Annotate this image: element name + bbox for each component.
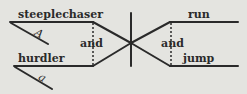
predicate-1-word: run <box>188 9 210 20</box>
subject-conjunction: and <box>80 38 103 49</box>
sentence-diagram: steeplechaser A hurdler a and run jump a… <box>0 0 247 94</box>
modifier-2-line <box>15 67 52 89</box>
subject-1-word: steeplechaser <box>18 9 103 20</box>
predicate-conjunction: and <box>161 38 184 49</box>
subject-2-word: hurdler <box>18 53 64 64</box>
predicate-2-word: jump <box>183 53 214 64</box>
